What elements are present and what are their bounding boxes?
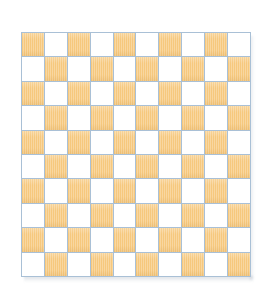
board-square-r6-c3 [68,155,91,179]
board-square-r5-c8 [182,131,205,155]
board-square-r1-c2 [45,33,68,57]
board-square-r4-c9 [205,106,228,130]
board-square-r1-c6 [136,33,159,57]
board-square-r6-c10 [228,155,251,179]
board-square-r5-c10 [228,131,251,155]
board-square-r4-c8 [182,106,205,130]
board-square-r1-c3 [68,33,91,57]
board-square-r10-c4 [91,253,114,277]
board-square-r8-c6 [136,204,159,228]
board-square-r8-c3 [68,204,91,228]
board-square-r6-c1 [22,155,45,179]
board-square-r8-c9 [205,204,228,228]
board-square-r2-c2 [45,57,68,81]
board-square-r5-c2 [45,131,68,155]
board-square-r10-c1 [22,253,45,277]
board-square-r10-c6 [136,253,159,277]
board-square-r8-c1 [22,204,45,228]
board-square-r10-c10 [228,253,251,277]
board-square-r9-c1 [22,228,45,252]
board-square-r6-c9 [205,155,228,179]
board-square-r8-c2 [45,204,68,228]
board-square-r9-c2 [45,228,68,252]
board-square-r8-c4 [91,204,114,228]
board-square-r3-c8 [182,82,205,106]
checkerboard-figure [0,0,261,289]
board-square-r1-c1 [22,33,45,57]
board-square-r8-c8 [182,204,205,228]
board-square-r3-c1 [22,82,45,106]
board-square-r9-c7 [159,228,182,252]
board-square-r1-c4 [91,33,114,57]
board-square-r5-c6 [136,131,159,155]
board-square-r10-c2 [45,253,68,277]
checkerboard-grid [21,32,251,277]
board-square-r4-c6 [136,106,159,130]
board-square-r4-c10 [228,106,251,130]
board-square-r2-c4 [91,57,114,81]
board-square-r2-c6 [136,57,159,81]
board-square-r8-c5 [114,204,137,228]
board-square-r6-c5 [114,155,137,179]
board-square-r4-c3 [68,106,91,130]
board-square-r7-c1 [22,179,45,203]
board-square-r6-c8 [182,155,205,179]
board-square-r9-c5 [114,228,137,252]
board-square-r3-c4 [91,82,114,106]
board-square-r1-c10 [228,33,251,57]
board-square-r3-c9 [205,82,228,106]
board-square-r6-c2 [45,155,68,179]
board-square-r2-c9 [205,57,228,81]
board-square-r8-c7 [159,204,182,228]
board-square-r3-c5 [114,82,137,106]
board-square-r2-c7 [159,57,182,81]
board-square-r9-c9 [205,228,228,252]
board-square-r10-c9 [205,253,228,277]
board-square-r7-c6 [136,179,159,203]
board-square-r9-c3 [68,228,91,252]
board-square-r7-c8 [182,179,205,203]
board-square-r4-c1 [22,106,45,130]
board-square-r10-c8 [182,253,205,277]
board-square-r3-c6 [136,82,159,106]
board-square-r7-c9 [205,179,228,203]
board-square-r2-c3 [68,57,91,81]
board-square-r5-c1 [22,131,45,155]
board-square-r3-c2 [45,82,68,106]
board-square-r8-c10 [228,204,251,228]
board-square-r5-c3 [68,131,91,155]
board-square-r9-c4 [91,228,114,252]
board-square-r7-c2 [45,179,68,203]
board-square-r7-c10 [228,179,251,203]
board-square-r1-c5 [114,33,137,57]
board-square-r1-c8 [182,33,205,57]
board-square-r5-c9 [205,131,228,155]
board-square-r2-c5 [114,57,137,81]
board-square-r7-c7 [159,179,182,203]
board-square-r1-c9 [205,33,228,57]
board-square-r3-c3 [68,82,91,106]
board-square-r10-c3 [68,253,91,277]
board-square-r2-c1 [22,57,45,81]
board-square-r4-c2 [45,106,68,130]
board-drop-shadow [24,276,253,283]
board-square-r6-c4 [91,155,114,179]
board-square-r4-c7 [159,106,182,130]
board-square-r7-c3 [68,179,91,203]
board-square-r9-c6 [136,228,159,252]
board-square-r5-c5 [114,131,137,155]
board-square-r10-c5 [114,253,137,277]
board-square-r2-c10 [228,57,251,81]
board-square-r3-c7 [159,82,182,106]
board-square-r2-c8 [182,57,205,81]
board-square-r6-c7 [159,155,182,179]
board-square-r4-c4 [91,106,114,130]
board-square-r5-c7 [159,131,182,155]
board-square-r4-c5 [114,106,137,130]
board-square-r9-c10 [228,228,251,252]
board-square-r5-c4 [91,131,114,155]
board-square-r7-c4 [91,179,114,203]
board-square-r7-c5 [114,179,137,203]
board-square-r3-c10 [228,82,251,106]
board-square-r9-c8 [182,228,205,252]
